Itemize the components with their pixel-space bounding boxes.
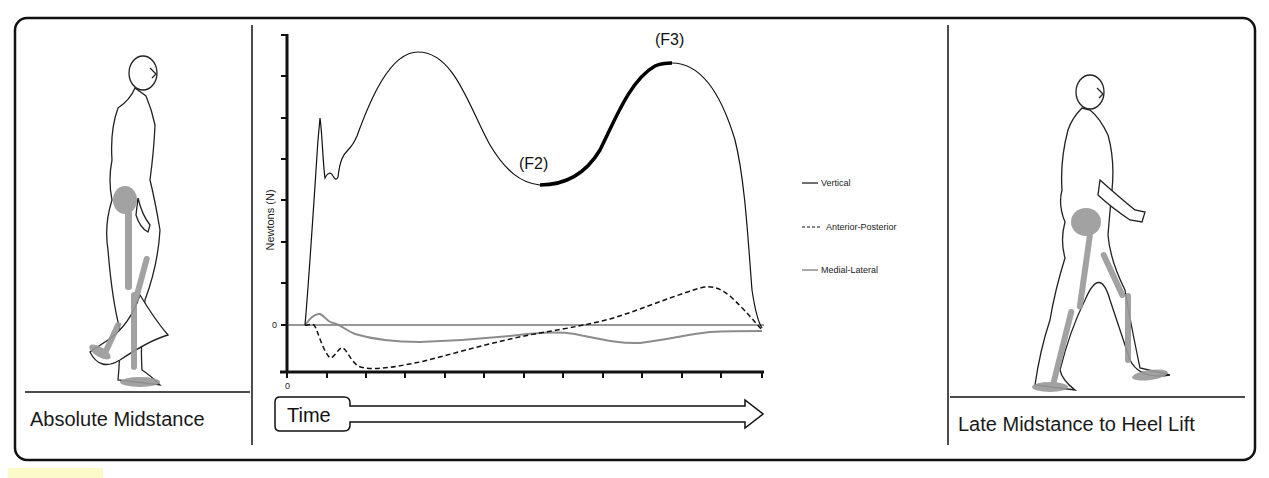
x-zero-label: 0 bbox=[285, 381, 290, 391]
annotation-f3: (F3) bbox=[655, 31, 684, 48]
annotation-f2: (F2) bbox=[519, 155, 548, 172]
caption-absolute-midstance: Absolute Midstance bbox=[30, 408, 205, 431]
x-axis-label-time: Time bbox=[287, 404, 331, 426]
scan-highlight-artifact bbox=[8, 468, 103, 478]
svg-text:Anterior-Posterior: Anterior-Posterior bbox=[826, 222, 897, 232]
svg-text:Vertical: Vertical bbox=[821, 178, 851, 188]
figure-canvas: 0 0 Newtons (N) (F2) (F3) Time bbox=[0, 0, 1269, 478]
caption-late-midstance-heel-lift: Late Midstance to Heel Lift bbox=[958, 413, 1195, 436]
gait-force-figure: 0 0 Newtons (N) (F2) (F3) Time bbox=[0, 0, 1269, 478]
y-axis-label: Newtons (N) bbox=[264, 189, 276, 250]
y-zero-label: 0 bbox=[272, 320, 277, 330]
svg-text:Medial-Lateral: Medial-Lateral bbox=[821, 265, 878, 275]
